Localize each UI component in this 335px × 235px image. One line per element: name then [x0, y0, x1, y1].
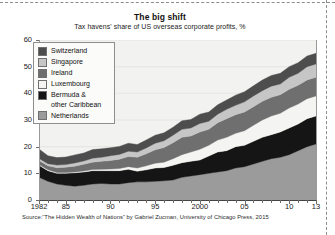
- legend-item[interactable]: Singapore: [38, 57, 111, 67]
- chart-legend: SwitzerlandSingaporeIrelandLuxembourgBer…: [33, 42, 115, 124]
- x-tick-mark: [271, 200, 272, 203]
- x-tick-mark: [182, 200, 183, 203]
- x-tick-mark: [173, 200, 174, 203]
- legend-item-label: Singapore: [51, 57, 83, 67]
- x-tick-label: 90: [106, 203, 114, 211]
- figure-root: The big shift Tax havens' share of US ov…: [0, 0, 335, 235]
- legend-swatch-icon: [38, 91, 47, 100]
- y-tick-label: 30: [2, 116, 32, 124]
- legend-item-label: Bermuda & other Caribbean: [51, 90, 101, 109]
- legend-swatch-icon: [38, 58, 47, 67]
- x-tick-mark: [102, 200, 103, 203]
- x-tick-mark: [57, 200, 58, 203]
- x-tick-mark: [218, 200, 219, 203]
- x-tick-mark: [75, 200, 76, 203]
- legend-swatch-icon: [38, 69, 47, 78]
- x-tick-label: 13: [312, 203, 320, 211]
- legend-item[interactable]: Bermuda & other Caribbean: [38, 90, 111, 109]
- y-tick-mark: [36, 40, 39, 41]
- x-tick-mark: [298, 200, 299, 203]
- x-tick-mark: [209, 200, 210, 203]
- x-tick-label: 95: [151, 203, 159, 211]
- x-tick-mark: [227, 200, 228, 203]
- x-tick-mark: [262, 200, 263, 203]
- y-tick-label: 20: [2, 143, 32, 151]
- x-tick-mark: [93, 200, 94, 203]
- x-tick-label: 10: [285, 203, 293, 211]
- legend-item-label: Ireland: [51, 68, 72, 78]
- legend-item[interactable]: Netherlands: [38, 111, 111, 121]
- x-tick-mark: [164, 200, 165, 203]
- legend-swatch-icon: [38, 80, 47, 89]
- x-tick-mark: [48, 200, 49, 203]
- source-note: Source:“The Hidden Wealth of Nations” by…: [22, 214, 269, 220]
- x-tick-mark: [84, 200, 85, 203]
- dashed-crop-line-right: [326, 0, 327, 235]
- x-tick-mark: [307, 200, 308, 203]
- y-tick-mark: [36, 173, 39, 174]
- y-tick-label: 60: [2, 36, 32, 44]
- legend-item[interactable]: Switzerland: [38, 46, 111, 56]
- x-tick-mark: [280, 200, 281, 203]
- legend-item[interactable]: Luxembourg: [38, 79, 111, 89]
- y-tick-label: 0: [2, 196, 32, 204]
- y-tick-mark: [36, 147, 39, 148]
- x-tick-mark: [137, 200, 138, 203]
- y-tick-label: 40: [2, 89, 32, 97]
- legend-item-label: Netherlands: [51, 111, 89, 121]
- x-tick-label: 05: [240, 203, 248, 211]
- x-tick-label: 1982: [31, 203, 48, 211]
- legend-item-label: Switzerland: [51, 46, 87, 56]
- x-tick-mark: [146, 200, 147, 203]
- page-title: The big shift: [0, 12, 320, 22]
- y-tick-label: 50: [2, 63, 32, 71]
- x-tick-label: 85: [62, 203, 70, 211]
- legend-swatch-icon: [38, 47, 47, 56]
- x-tick-mark: [119, 200, 120, 203]
- x-tick-label: 2000: [191, 203, 208, 211]
- legend-swatch-icon: [38, 111, 47, 120]
- y-tick-label: 10: [2, 169, 32, 177]
- x-tick-mark: [128, 200, 129, 203]
- x-axis: [39, 200, 316, 201]
- x-tick-mark: [253, 200, 254, 203]
- chart-subtitle: Tax havens' share of US overseas corpora…: [0, 23, 320, 30]
- legend-item[interactable]: Ireland: [38, 68, 111, 78]
- x-tick-mark: [236, 200, 237, 203]
- legend-item-label: Luxembourg: [51, 79, 90, 89]
- dashed-crop-line-top: [0, 2, 335, 3]
